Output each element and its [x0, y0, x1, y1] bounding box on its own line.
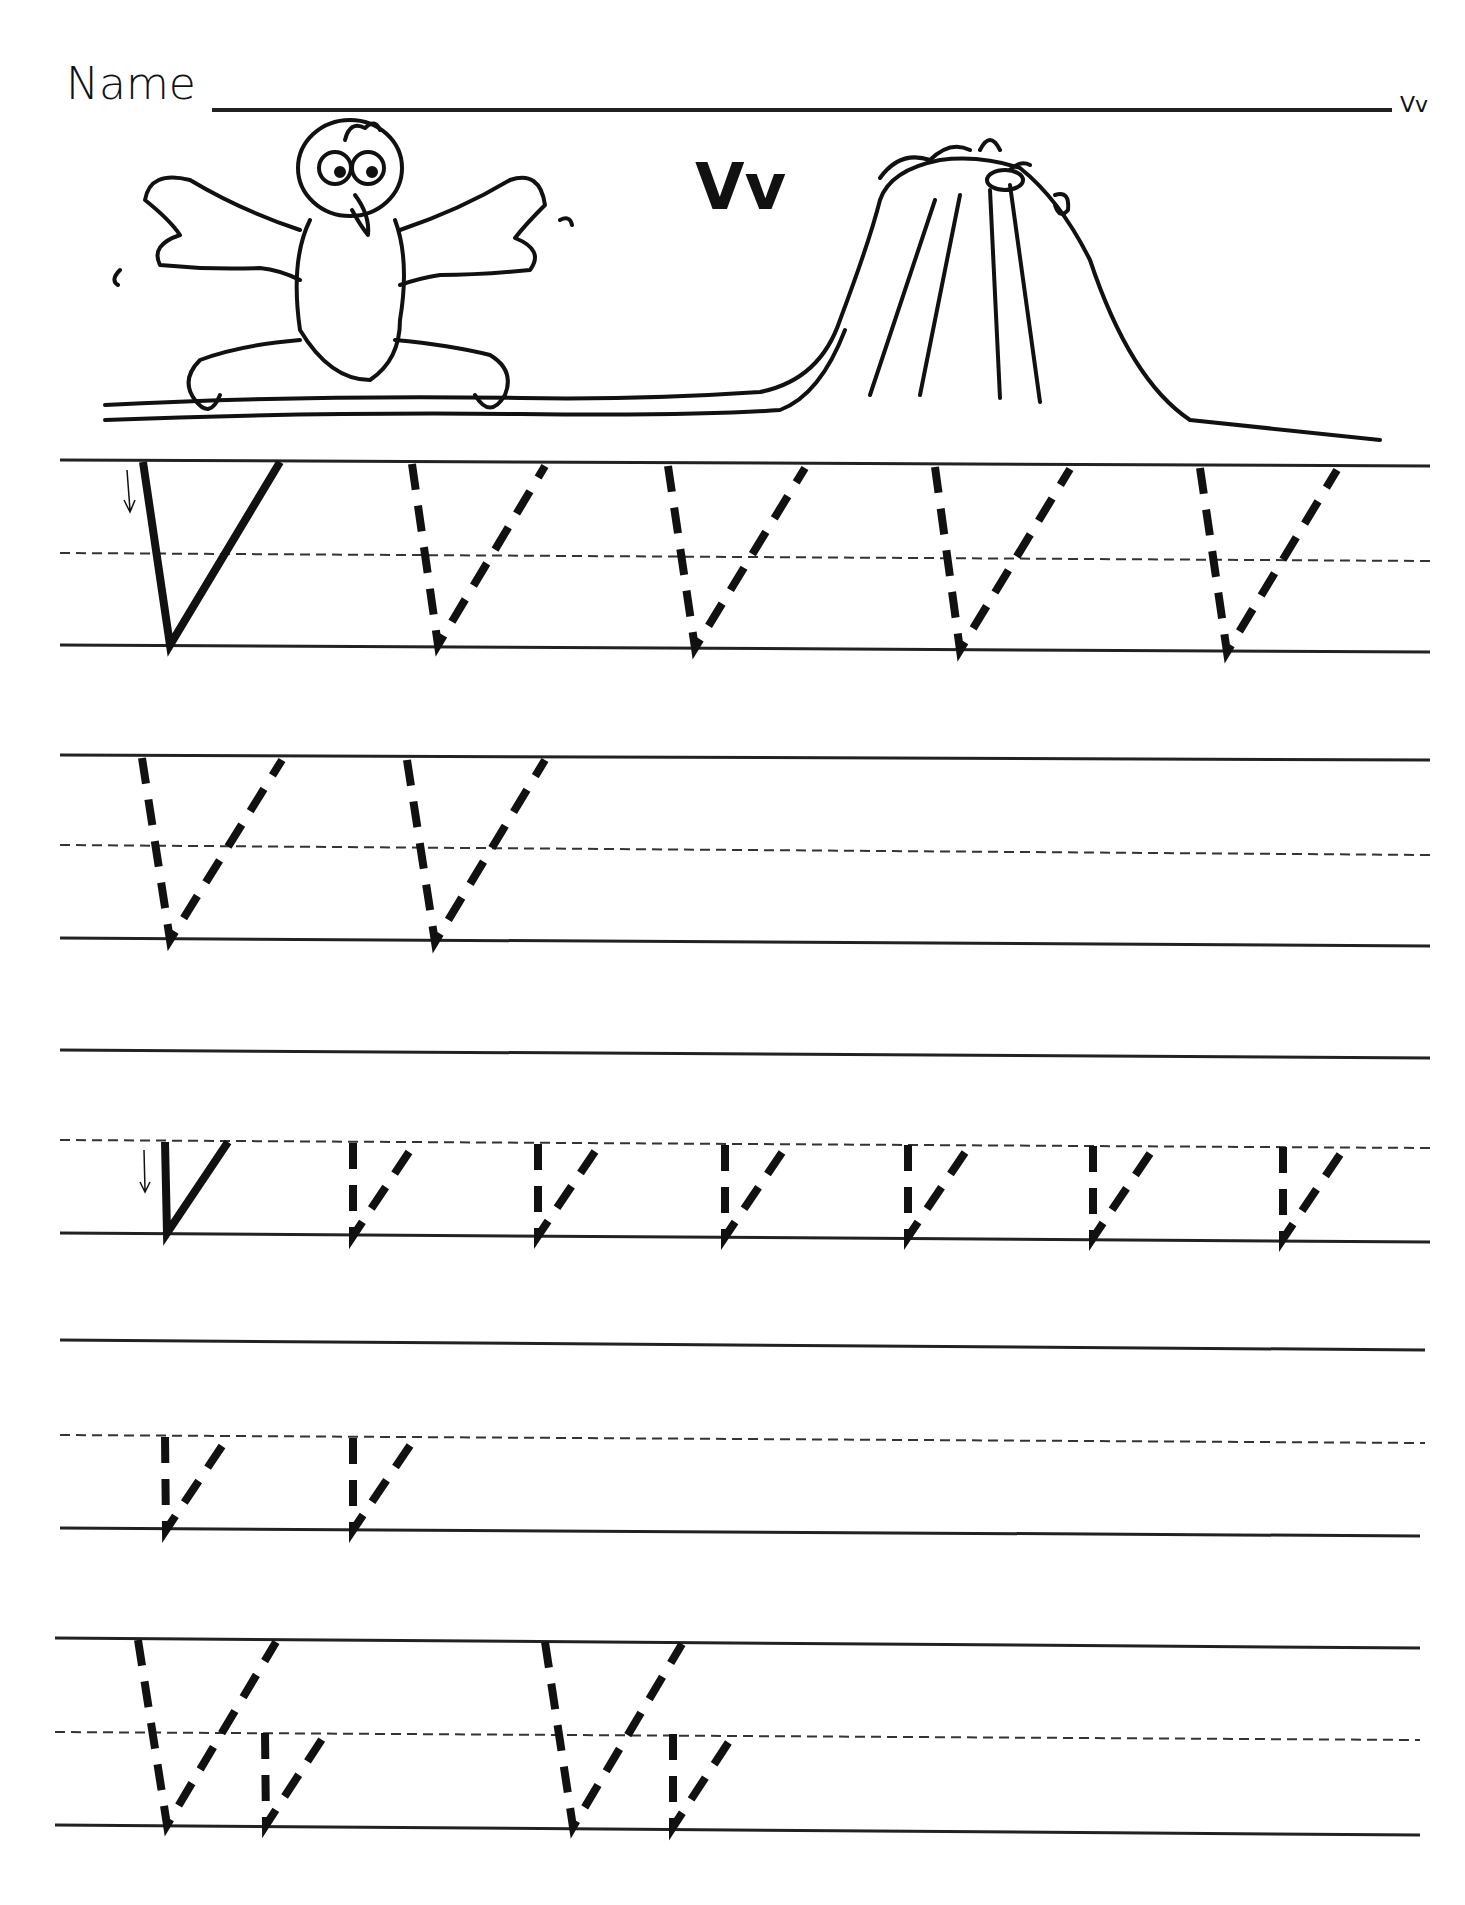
model-letter-v — [165, 1142, 228, 1233]
practice-row-5[interactable] — [55, 1638, 1420, 1835]
practice-row-1[interactable] — [60, 460, 1430, 652]
practice-row-4[interactable] — [60, 1340, 1425, 1536]
handwriting-practice-area: .solid { stroke:#222; stroke-width:3; } … — [0, 0, 1465, 1905]
practice-row-3[interactable] — [60, 1050, 1430, 1242]
arrow-icon — [124, 470, 135, 512]
practice-row-2[interactable] — [60, 755, 1430, 946]
arrow-icon — [140, 1150, 150, 1192]
